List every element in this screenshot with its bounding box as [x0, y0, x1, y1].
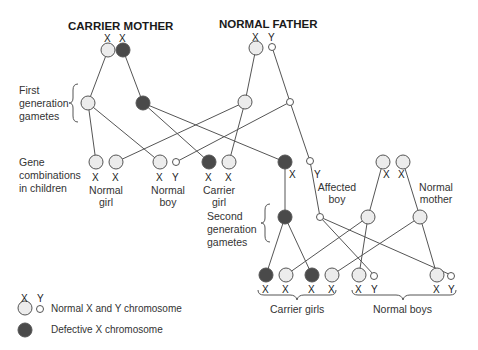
label-y: Y [448, 285, 455, 295]
label-x: X [104, 34, 111, 44]
label-y: Y [371, 285, 378, 295]
normal-boys-brace [352, 290, 456, 300]
first-gen-brace [69, 84, 78, 122]
normal-boys-label: Normal boys [373, 303, 432, 315]
gamete-mother-normal [81, 96, 95, 110]
label-x: X [328, 285, 335, 295]
label-x: X [308, 285, 315, 295]
label-x: X [119, 34, 126, 44]
label-x: X [112, 173, 119, 183]
legend-defective-label: Defective X chromosome [51, 324, 163, 336]
affected-boy-label: Affected boy [312, 181, 362, 205]
label-x: X [282, 285, 289, 295]
gamete-father-y [287, 99, 294, 106]
normal-boy-label: Normal boy [148, 184, 188, 208]
label-x: X [205, 173, 212, 183]
legend-normal-label: Normal X and Y chromosome [51, 303, 182, 315]
label-y: Y [172, 173, 179, 183]
mother-defective-x [116, 43, 130, 57]
label-x: X [225, 173, 232, 183]
label-x: X [398, 170, 405, 180]
gamete-mother-defective [136, 96, 150, 110]
carrier-girls-label: Carrier girls [270, 303, 324, 315]
mother-normal-x [101, 43, 115, 57]
legend-defective-x-icon [18, 323, 32, 337]
label-x: X [252, 33, 259, 43]
carrier-mother-title: CARRIER MOTHER [68, 20, 173, 32]
legend-x-label: X [21, 294, 28, 304]
label-x: X [262, 285, 269, 295]
normal-mother-label: Normal mother [414, 181, 458, 205]
legend-normal-y-icon [37, 306, 44, 313]
label-x: X [156, 173, 163, 183]
second-gen-brace [261, 204, 270, 242]
label-x: X [383, 170, 390, 180]
father-x [249, 41, 263, 55]
carrier-girls-brace [258, 290, 336, 300]
label-y: Y [314, 170, 321, 180]
normal-girl-label: Normal girl [86, 184, 126, 208]
legend-y-label: Y [37, 294, 44, 304]
label-x: X [355, 285, 362, 295]
father-y [269, 44, 276, 51]
gamete-father-x [238, 95, 252, 109]
label-x: X [92, 173, 99, 183]
carrier-girl-label: Carrier girl [199, 184, 239, 208]
normal-father-title: NORMAL FATHER [219, 18, 318, 30]
label-x: X [433, 285, 440, 295]
label-x: X [289, 170, 296, 180]
label-y: Y [268, 33, 275, 43]
